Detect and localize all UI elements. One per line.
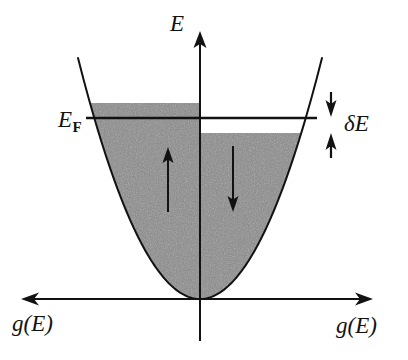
dos-axis-label-left: g(E): [12, 312, 53, 335]
dos-figure: E EF δE g(E) g(E): [0, 0, 408, 360]
dos-diagram-canvas: [0, 0, 408, 360]
fermi-level-label-subscript: F: [73, 119, 82, 135]
spin-down-fill: [200, 133, 408, 303]
delta-energy-label: δE: [344, 112, 369, 135]
spin-up-fill: [0, 103, 200, 303]
dos-axis-label-right: g(E): [336, 314, 377, 337]
fermi-level-label: EF: [58, 108, 82, 135]
fermi-level-label-base: E: [58, 107, 72, 132]
energy-axis-label: E: [170, 12, 184, 35]
